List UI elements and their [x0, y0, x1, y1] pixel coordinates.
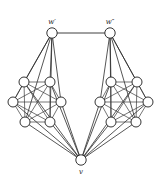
node-label-v: v	[79, 168, 83, 176]
graph-node-l5	[20, 117, 30, 127]
graph-node-r1	[106, 77, 116, 87]
graph-node-l3	[8, 97, 18, 107]
graph-edge	[52, 33, 61, 102]
graph-node-wpp	[105, 28, 115, 38]
node-label-wpp: w″	[106, 18, 115, 26]
graph-node-l6	[45, 117, 55, 127]
node-label-wp: w′	[48, 18, 56, 26]
graph-node-l2	[45, 77, 55, 87]
graph-node-v	[76, 155, 86, 165]
graph-node-r2	[132, 77, 142, 87]
graph-node-wp	[47, 28, 57, 38]
graph-node-r6	[131, 117, 141, 127]
graph-edge	[25, 122, 81, 160]
graph-node-r4	[143, 97, 153, 107]
graph-node-r3	[95, 97, 105, 107]
graph-edge	[81, 122, 136, 160]
graph-edge	[111, 102, 148, 122]
graph-canvas: w′w″v	[0, 0, 161, 187]
graph-edge	[100, 33, 110, 102]
graph-edge	[50, 122, 81, 160]
node-layer	[8, 28, 153, 165]
graph-node-l1	[19, 77, 29, 87]
graph-edge	[81, 122, 111, 160]
graph-figure: w′w″v	[0, 0, 161, 187]
graph-node-r5	[106, 117, 116, 127]
graph-edge	[81, 102, 148, 160]
graph-edge	[13, 102, 50, 122]
graph-node-l4	[56, 97, 66, 107]
edge-layer	[13, 33, 148, 160]
